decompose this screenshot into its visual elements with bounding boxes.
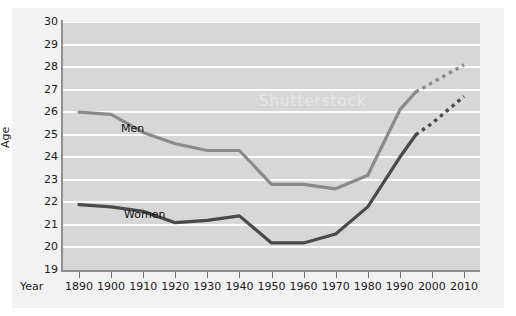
gridline: [63, 224, 480, 226]
y-tick-label: 27: [34, 84, 58, 95]
x-tick-mark: [79, 272, 80, 278]
chart-figure: Shutterstock 192021222324252627282930 18…: [0, 0, 516, 316]
series-label-women: Women: [124, 208, 165, 221]
y-axis-tick-labels: 192021222324252627282930: [28, 0, 58, 316]
x-tick-mark: [304, 272, 305, 278]
y-tick-label: 19: [34, 264, 58, 275]
x-axis-title: Year: [20, 280, 43, 293]
y-axis-line: [61, 20, 63, 272]
series-label-men: Men: [121, 122, 144, 135]
y-tick-label: 23: [34, 174, 58, 185]
gridline: [63, 201, 480, 203]
gridline: [63, 111, 480, 113]
x-tick-mark: [111, 272, 112, 278]
gridline: [63, 89, 480, 91]
y-tick-label: 20: [34, 241, 58, 252]
watermark-text: Shutterstock: [259, 92, 367, 110]
x-tick-mark: [207, 272, 208, 278]
gridline: [63, 44, 480, 46]
x-tick-mark: [368, 272, 369, 278]
x-tick-mark: [272, 272, 273, 278]
y-tick-label: 22: [34, 196, 58, 207]
gridline: [63, 179, 480, 181]
y-tick-label: 29: [34, 39, 58, 50]
gridline: [63, 246, 480, 248]
y-axis-title: Age: [0, 127, 12, 148]
gridline: [63, 66, 480, 68]
x-axis-line: [61, 270, 480, 272]
x-tick-mark: [175, 272, 176, 278]
x-tick-label: 2010: [444, 280, 484, 293]
x-tick-mark: [432, 272, 433, 278]
y-tick-label: 21: [34, 219, 58, 230]
y-tick-label: 24: [34, 151, 58, 162]
x-tick-mark: [336, 272, 337, 278]
plot-area: Shutterstock: [63, 22, 480, 270]
gridline: [63, 22, 480, 23]
y-tick-label: 28: [34, 61, 58, 72]
x-tick-mark: [464, 272, 465, 278]
y-tick-label: 30: [34, 16, 58, 27]
x-tick-mark: [143, 272, 144, 278]
gridline: [63, 156, 480, 158]
y-tick-label: 25: [34, 129, 58, 140]
y-tick-label: 26: [34, 106, 58, 117]
x-tick-mark: [239, 272, 240, 278]
x-tick-mark: [400, 272, 401, 278]
